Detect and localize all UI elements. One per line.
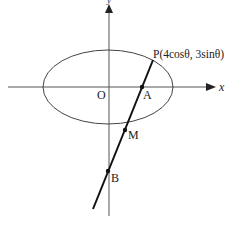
ellipse-diagram: x y O A M B P(4cosθ, 3sinθ) [0,0,239,225]
x-axis-label: x [218,80,225,94]
y-axis-arrow-icon [105,4,113,13]
point-A-label: A [143,88,152,102]
line-PB [93,60,153,209]
y-axis-label: y [106,0,111,5]
origin-label: O [97,88,106,102]
point-P-label: P(4cosθ, 3sinθ) [153,48,224,61]
point-B [106,169,110,173]
point-B-label: B [111,171,119,185]
point-M [123,128,127,132]
point-M-label: M [128,128,139,142]
x-axis-arrow-icon [206,83,216,91]
